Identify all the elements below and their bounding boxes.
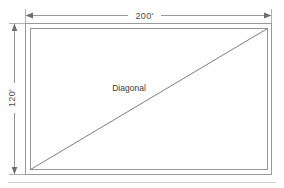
vertical-dimension: 120' [7, 24, 18, 175]
arrowhead-down [12, 167, 18, 175]
arrowhead-up [12, 24, 18, 32]
rectangle-dimension-diagram: 200' 120' Diagonal [0, 0, 284, 188]
horizontal-dimension: 200' [26, 11, 272, 21]
diagonal-label: Diagonal [112, 83, 146, 93]
diagram-canvas: 200' 120' Diagonal [0, 0, 284, 188]
arrowhead-right [264, 13, 272, 19]
width-dimension-label: 200' [136, 11, 154, 21]
height-dimension-label: 120' [7, 89, 17, 107]
arrowhead-left [26, 13, 34, 19]
